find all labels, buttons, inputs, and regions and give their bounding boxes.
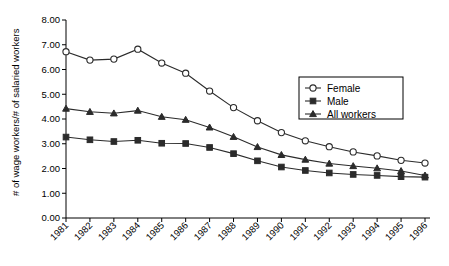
data-point bbox=[111, 56, 117, 62]
data-point bbox=[135, 46, 141, 52]
x-tick-label: 1993 bbox=[335, 220, 358, 243]
data-point bbox=[326, 144, 332, 150]
data-point bbox=[230, 105, 236, 111]
legend-label: Male bbox=[327, 96, 349, 107]
data-point bbox=[63, 49, 69, 55]
x-axis-tick-labels: 1981198219831984198519861987198819891990… bbox=[48, 220, 430, 243]
legend-label: Female bbox=[327, 83, 361, 94]
x-tick-label: 1990 bbox=[263, 220, 286, 243]
y-axis-title: # of wage workers/# of salaried workers bbox=[10, 28, 21, 196]
legend-marker bbox=[310, 98, 316, 104]
data-point bbox=[135, 137, 141, 143]
chart-legend: FemaleMaleAll workers bbox=[299, 77, 403, 120]
x-tick-label: 1987 bbox=[191, 220, 214, 243]
series-line bbox=[66, 137, 425, 177]
data-point bbox=[398, 157, 404, 163]
data-point bbox=[183, 70, 189, 76]
data-point bbox=[254, 118, 260, 124]
data-point bbox=[207, 88, 213, 94]
legend-label: All workers bbox=[327, 109, 376, 120]
y-tick-label: 8.00 bbox=[42, 14, 61, 25]
x-tick-label: 1996 bbox=[407, 220, 430, 243]
data-point bbox=[422, 160, 428, 166]
x-tick-label: 1986 bbox=[167, 220, 190, 243]
data-point bbox=[87, 137, 93, 143]
data-point bbox=[111, 139, 117, 145]
data-point bbox=[254, 144, 261, 150]
data-point bbox=[159, 140, 165, 146]
x-tick-label: 1991 bbox=[287, 220, 310, 243]
data-point bbox=[183, 141, 189, 147]
x-tick-label: 1982 bbox=[72, 220, 95, 243]
chart-canvas: # of wage workers/# of salaried workers … bbox=[0, 0, 449, 266]
line-chart: # of wage workers/# of salaried workers … bbox=[0, 0, 449, 266]
x-tick-label: 1989 bbox=[239, 220, 262, 243]
y-tick-label: 1.00 bbox=[42, 188, 61, 199]
data-point bbox=[350, 149, 356, 155]
data-point bbox=[278, 130, 284, 136]
legend-marker bbox=[310, 85, 316, 91]
data-point bbox=[134, 107, 141, 113]
y-tick-label: 2.00 bbox=[42, 163, 61, 174]
x-tick-label: 1995 bbox=[383, 220, 406, 243]
data-point bbox=[63, 105, 70, 111]
data-point bbox=[374, 173, 380, 179]
x-tick-label: 1994 bbox=[359, 220, 382, 243]
y-tick-label: 6.00 bbox=[42, 64, 61, 75]
y-axis-tick-labels: 0.001.002.003.004.005.006.007.008.00 bbox=[42, 14, 61, 223]
y-tick-label: 5.00 bbox=[42, 89, 61, 100]
x-tick-label: 1985 bbox=[143, 220, 166, 243]
data-point bbox=[303, 168, 309, 174]
series-male bbox=[63, 134, 428, 180]
data-point bbox=[374, 153, 380, 159]
y-tick-label: 3.00 bbox=[42, 138, 61, 149]
y-tick-label: 4.00 bbox=[42, 113, 61, 124]
y-tick-label: 0.00 bbox=[42, 212, 61, 223]
x-tick-label: 1988 bbox=[215, 220, 238, 243]
data-point bbox=[63, 134, 69, 140]
data-point bbox=[255, 158, 261, 164]
data-point bbox=[326, 170, 332, 176]
data-point bbox=[350, 172, 356, 178]
y-tick-label: 7.00 bbox=[42, 39, 61, 50]
data-point bbox=[87, 57, 93, 63]
data-point bbox=[279, 164, 285, 170]
data-point bbox=[231, 151, 237, 157]
x-tick-label: 1983 bbox=[96, 220, 119, 243]
x-tick-label: 1992 bbox=[311, 220, 334, 243]
data-point bbox=[159, 60, 165, 66]
data-point bbox=[207, 145, 213, 151]
data-point bbox=[302, 138, 308, 144]
x-tick-label: 1984 bbox=[119, 220, 142, 243]
data-point bbox=[398, 174, 404, 180]
